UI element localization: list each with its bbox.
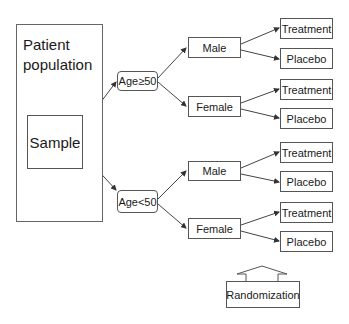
- treatment-arm: Treatment: [280, 142, 333, 163]
- age-under-50-node: Age<50: [117, 190, 158, 213]
- age-label: Age≥50: [119, 75, 157, 87]
- randomization-label: Randomization: [226, 289, 299, 301]
- age-50-plus-node: Age≥50: [117, 71, 158, 91]
- female-node: Female: [188, 218, 241, 239]
- female-node: Female: [188, 96, 241, 117]
- arm-label: Placebo: [287, 176, 327, 188]
- arm-label: Treatment: [282, 23, 332, 35]
- male-node: Male: [188, 161, 241, 181]
- age-label: Age<50: [118, 196, 156, 208]
- arm-label: Placebo: [287, 113, 327, 125]
- sex-label: Male: [203, 42, 227, 54]
- arm-label: Treatment: [282, 207, 332, 219]
- sample-box: Sample: [27, 115, 83, 169]
- randomization-arrow-icon: [237, 266, 287, 281]
- arm-label: Placebo: [287, 53, 327, 65]
- patient-population-label: Patient population: [23, 35, 92, 75]
- arm-label: Treatment: [282, 84, 332, 96]
- treatment-arm: Treatment: [280, 202, 333, 223]
- population-label-line1: Patient: [23, 35, 92, 55]
- arm-label: Treatment: [282, 147, 332, 159]
- treatment-arm: Treatment: [280, 79, 333, 100]
- arm-label: Placebo: [287, 236, 327, 248]
- placebo-arm: Placebo: [280, 108, 333, 129]
- sex-label: Male: [203, 165, 227, 177]
- placebo-arm: Placebo: [280, 171, 333, 192]
- sex-label: Female: [196, 223, 233, 235]
- placebo-arm: Placebo: [280, 231, 333, 252]
- placebo-arm: Placebo: [280, 48, 333, 69]
- treatment-arm: Treatment: [280, 18, 333, 39]
- population-label-line2: population: [23, 55, 92, 75]
- randomization-box: Randomization: [226, 281, 300, 308]
- male-node: Male: [188, 37, 241, 58]
- sex-label: Female: [196, 101, 233, 113]
- sample-label: Sample: [30, 134, 81, 151]
